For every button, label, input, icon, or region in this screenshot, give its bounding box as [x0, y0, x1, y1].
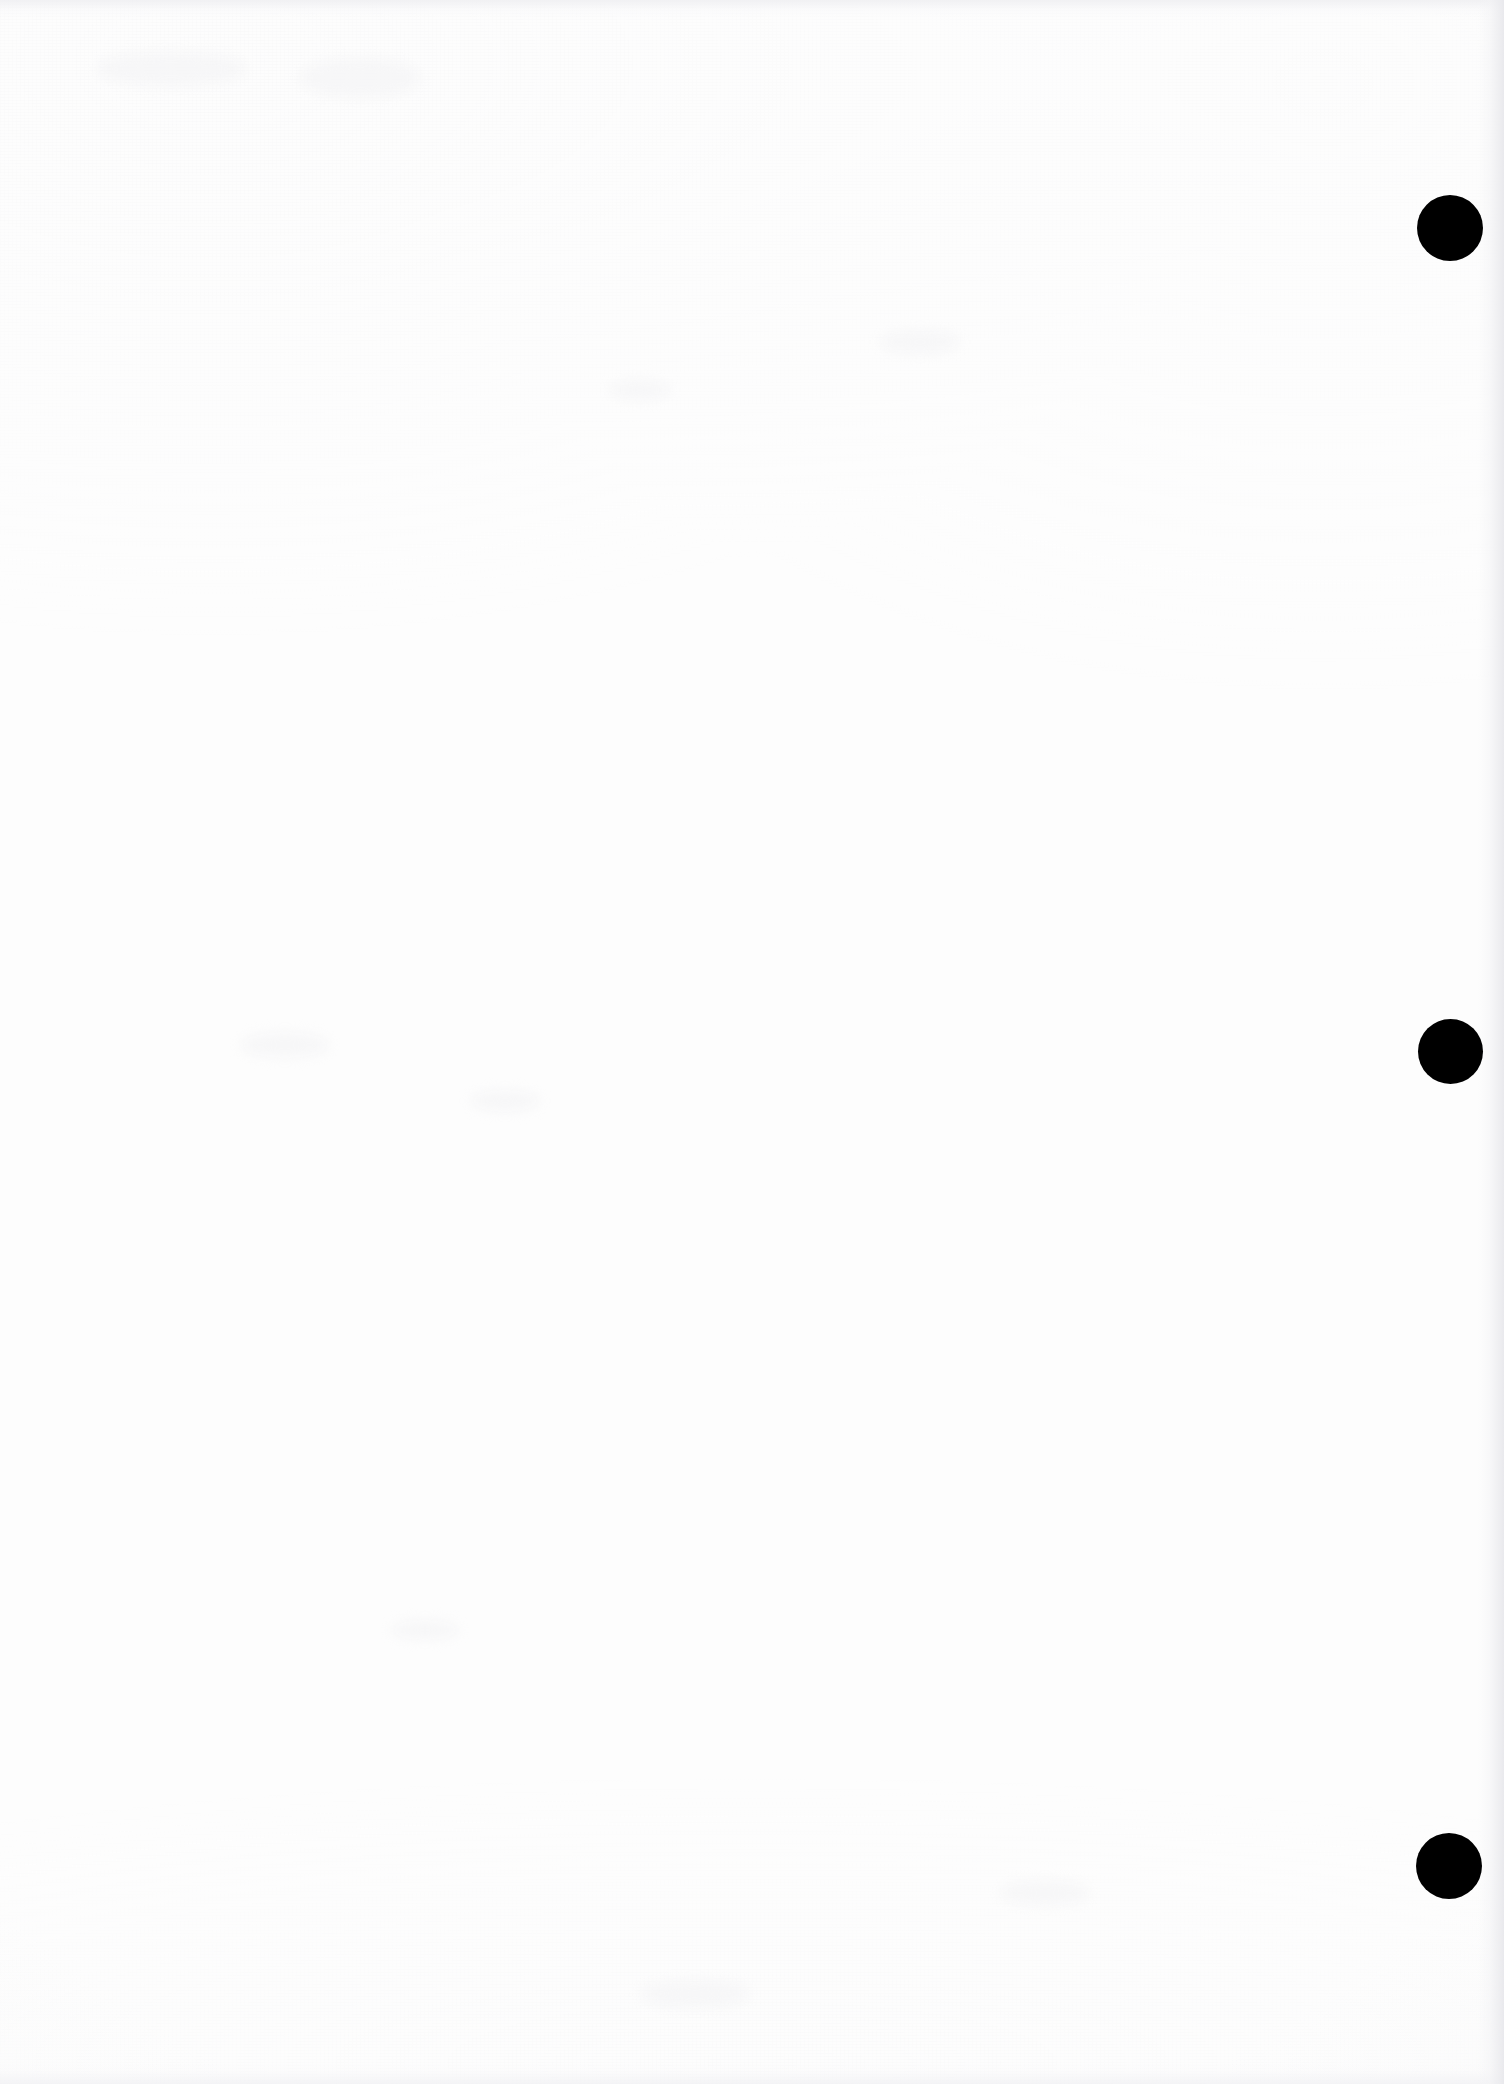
margin-dot-3 — [1416, 1833, 1482, 1899]
paper-background — [0, 0, 1504, 2084]
margin-dot-1 — [1417, 195, 1483, 261]
margin-dot-2 — [1418, 1019, 1483, 1084]
scanned-page — [0, 0, 1504, 2084]
